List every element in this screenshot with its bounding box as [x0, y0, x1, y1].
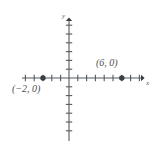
y-axis-label: y	[61, 12, 66, 20]
x-axis-arrowhead	[141, 75, 145, 81]
data-point-6-0	[119, 75, 124, 80]
y-axis-arrowhead	[66, 18, 72, 21]
data-point-neg2-0	[40, 75, 45, 80]
graph-figure: x y (−2, 0) (6, 0)	[0, 0, 158, 146]
point-label-neg2-0: (−2, 0)	[12, 83, 40, 94]
coordinate-plane-svg: x y	[0, 0, 158, 146]
point-label-6-0: (6, 0)	[96, 57, 118, 68]
x-axis-label: x	[145, 79, 150, 87]
